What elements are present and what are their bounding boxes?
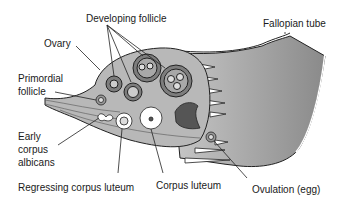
regressing-corpus-luteum-shape: [116, 113, 132, 129]
label-corpus-luteum: Corpus luteum: [156, 180, 221, 192]
label-early-corpus-albicans-2: corpus: [18, 144, 48, 156]
corpus-luteum-shape: [140, 107, 162, 129]
label-regressing-corpus-luteum: Regressing corpus luteum: [18, 182, 134, 194]
label-primordial-follicle-2: follicle: [18, 86, 46, 98]
label-developing-follicle: Developing follicle: [86, 13, 167, 25]
ovulated-egg-shape: [206, 132, 216, 142]
label-primordial-follicle-1: Primordial: [18, 73, 63, 85]
ovary-diagram-illustration: [0, 0, 343, 203]
label-fallopian-tube: Fallopian tube: [263, 18, 326, 30]
label-early-corpus-albicans-3: albicans: [18, 157, 55, 169]
ruptured-follicle-shape: [175, 103, 200, 129]
label-ovulation-egg: Ovulation (egg): [252, 184, 320, 196]
label-ovary: Ovary: [44, 38, 71, 50]
primordial-follicle-shape: [96, 95, 106, 105]
label-early-corpus-albicans-1: Early: [18, 131, 41, 143]
